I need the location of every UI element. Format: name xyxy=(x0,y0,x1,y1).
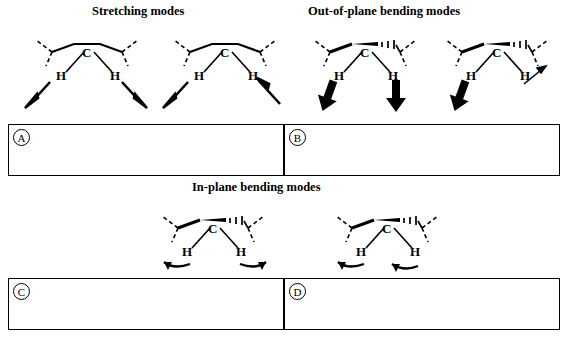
molecule-diagram-1 xyxy=(22,22,152,132)
answer-box-c-label: C xyxy=(13,283,30,300)
figure-root: Stretching modes Out-of-plane bending mo… xyxy=(0,0,568,338)
atom-label-carbon: C xyxy=(382,222,391,235)
answer-box-d-label: D xyxy=(289,283,306,300)
molecule-asymmetric-stretch: C H H xyxy=(160,22,290,94)
atom-label-hydrogen-right: H xyxy=(410,245,420,258)
molecule-out-of-plane-symmetric: C H H xyxy=(300,22,430,94)
heading-in-plane-bending-modes: In-plane bending modes xyxy=(192,180,321,195)
atom-label-carbon: C xyxy=(492,46,501,59)
atom-label-hydrogen-left: H xyxy=(466,69,476,82)
atom-label-hydrogen-right: H xyxy=(236,245,246,258)
answer-box-b[interactable]: B xyxy=(284,124,560,176)
molecule-symmetric-stretch: C H H xyxy=(22,22,152,94)
molecule-in-plane-scissor: C H H xyxy=(148,198,278,270)
answer-box-b-label: B xyxy=(289,129,306,146)
molecule-diagram-5 xyxy=(148,198,278,284)
answer-box-a-label: A xyxy=(13,129,30,146)
molecule-diagram-6 xyxy=(322,198,452,284)
atom-label-carbon: C xyxy=(360,46,369,59)
atom-label-hydrogen-left: H xyxy=(356,245,366,258)
molecule-out-of-plane-asymmetric: C H H xyxy=(432,22,562,94)
atom-label-hydrogen-right: H xyxy=(110,69,120,82)
atom-label-carbon: C xyxy=(82,46,91,59)
answer-box-a[interactable]: A xyxy=(8,124,284,176)
answer-box-c[interactable]: C xyxy=(8,278,284,330)
heading-out-of-plane-bending-modes: Out-of-plane bending modes xyxy=(308,4,460,19)
heading-stretching-modes: Stretching modes xyxy=(92,4,184,19)
atom-label-hydrogen-right: H xyxy=(248,69,258,82)
atom-label-carbon: C xyxy=(220,46,229,59)
answer-box-d[interactable]: D xyxy=(284,278,560,330)
molecule-diagram-4 xyxy=(432,22,562,132)
atom-label-carbon: C xyxy=(208,222,217,235)
atom-label-hydrogen-right: H xyxy=(388,69,398,82)
atom-label-hydrogen-left: H xyxy=(334,69,344,82)
atom-label-hydrogen-left: H xyxy=(194,69,204,82)
molecule-diagram-3 xyxy=(300,22,430,132)
atom-label-hydrogen-left: H xyxy=(56,69,66,82)
atom-label-hydrogen-right: H xyxy=(520,69,530,82)
molecule-diagram-2 xyxy=(160,22,290,132)
atom-label-hydrogen-left: H xyxy=(182,245,192,258)
molecule-in-plane-rock: C H H xyxy=(322,198,452,270)
